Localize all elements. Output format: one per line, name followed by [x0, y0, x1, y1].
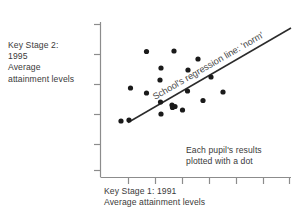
x-axis-caption-line-1: Key Stage 1: 1991	[104, 186, 205, 197]
scatter-plot-figure: School's regression line: 'norm'	[0, 0, 302, 220]
x-axis-caption: Key Stage 1: 1991 Average attainment lev…	[104, 186, 205, 208]
regression-line-label: School's regression line: 'norm'	[151, 30, 266, 102]
scatter-dot	[126, 117, 131, 122]
y-axis-caption-line-4: attainment levels	[8, 74, 74, 85]
scatter-dot	[171, 48, 176, 53]
scatter-dot	[200, 98, 205, 103]
x-axis-ticks	[129, 178, 290, 185]
y-axis-caption-line-2: 1995	[8, 51, 74, 62]
scatter-dot	[157, 77, 162, 82]
scatter-dot	[172, 104, 177, 109]
y-axis-caption: Key Stage 2: 1995 Average attainment lev…	[8, 40, 74, 85]
dot-note-line-1: Each pupil's results	[186, 145, 262, 156]
scatter-dot	[158, 65, 163, 70]
dot-note-line-2: plotted with a dot	[186, 156, 262, 167]
scatter-dot	[208, 74, 213, 79]
y-axis-caption-line-1: Key Stage 2:	[8, 40, 74, 51]
scatter-dot	[118, 118, 123, 123]
y-axis-ticks	[94, 25, 101, 171]
scatter-dot	[185, 88, 190, 93]
x-axis-caption-line-2: Average attainment levels	[104, 197, 205, 208]
scatter-dot	[180, 107, 185, 112]
scatter-dot	[144, 49, 149, 54]
scatter-dot	[158, 111, 163, 116]
scatter-dot	[185, 67, 190, 72]
y-axis-caption-line-3: Average	[8, 62, 74, 73]
scatter-dot	[220, 89, 225, 94]
scatter-dot	[128, 85, 133, 90]
scatter-dot	[144, 90, 149, 95]
scatter-dot	[158, 99, 163, 104]
scatter-dot	[195, 56, 200, 61]
dot-note-annotation: Each pupil's results plotted with a dot	[186, 145, 262, 167]
